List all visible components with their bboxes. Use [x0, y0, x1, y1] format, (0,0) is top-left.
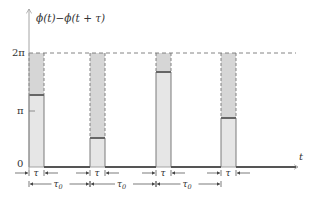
tau0-label: τ0	[183, 179, 192, 191]
period-annotations: τ0τ0τ0	[29, 179, 221, 191]
tau-annotation: τ	[207, 168, 250, 178]
pulse-body	[221, 118, 236, 167]
tau0-label: τ0	[54, 179, 63, 191]
pulse	[156, 53, 171, 167]
tau-label: τ	[161, 168, 167, 178]
tau0-annotation: τ0	[29, 179, 90, 191]
pulse	[90, 53, 105, 167]
tick-label-2pi: 2π	[12, 47, 25, 58]
tick-label-pi: π	[17, 105, 24, 116]
pulse-width-annotations: ττττ	[15, 168, 250, 178]
pulse-body	[156, 72, 171, 167]
tau0-label: τ0	[117, 179, 126, 191]
pulse	[221, 53, 236, 167]
tau-label: τ	[95, 168, 101, 178]
x-axis-label: t	[299, 151, 304, 162]
pulse-body	[29, 95, 44, 167]
pulse-group	[29, 53, 236, 167]
pulse-upper-region	[90, 53, 105, 138]
y-axis-label: ϕ(t)−ϕ(t + τ)	[36, 12, 105, 24]
phase-difference-diagram: ϕ(t)−ϕ(t + τ) 2π π 0 t ττττ τ0τ0τ0	[0, 0, 313, 200]
pulse-upper-region	[29, 53, 44, 95]
pulse-upper-region	[156, 53, 171, 72]
pulse	[29, 53, 44, 167]
tau-annotation: τ	[76, 168, 119, 178]
tau0-annotation: τ0	[90, 179, 156, 191]
pulse-body	[90, 138, 105, 167]
tau-label: τ	[34, 168, 40, 178]
pulse-upper-region	[221, 53, 236, 118]
tau-annotation: τ	[142, 168, 185, 178]
tau-annotation: τ	[15, 168, 58, 178]
tick-label-zero: 0	[17, 158, 23, 169]
tau-label: τ	[226, 168, 232, 178]
tau0-annotation: τ0	[156, 179, 221, 191]
